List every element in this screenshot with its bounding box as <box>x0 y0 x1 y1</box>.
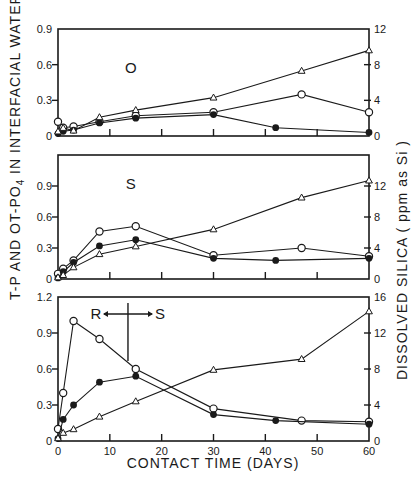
filled-circle-marker <box>70 402 77 409</box>
y-axis-right-title: DISSOLVED SILICA ( ppm as Si ) <box>394 140 410 380</box>
y-right-tick-label: 12 <box>374 180 386 192</box>
y-left-title-main: T-P AND OT-PO <box>7 185 23 300</box>
y-left-tick-label: 0.6 <box>37 363 52 375</box>
y-right-tick-label: 4 <box>374 94 380 106</box>
y-left-tick-label: 0.3 <box>37 242 52 254</box>
y-left-tick-label: 0 <box>46 130 52 142</box>
y-left-tick-label: 0.9 <box>37 327 52 339</box>
panel-label: O <box>125 59 137 76</box>
filled-circle-marker <box>210 255 217 262</box>
x-tick-label: 10 <box>104 445 116 457</box>
y-left-tick-label: 0.6 <box>37 211 52 223</box>
x-tick-label: 0 <box>55 445 61 457</box>
filled-circle-marker <box>60 416 67 423</box>
x-axis-title: CONTACT TIME (DAYS) <box>127 455 300 471</box>
y-left-tick-label: 0.3 <box>37 399 52 411</box>
y-right-tick-label: 16 <box>374 291 386 303</box>
y-left-tick-label: 0.6 <box>37 59 52 71</box>
y-left-title-rest: IN INTERFACIAL WATER ( ppm as P ) <box>7 0 23 179</box>
open-circle-marker <box>298 244 305 251</box>
y-right-tick-label: 0 <box>374 435 380 447</box>
open-circle-marker <box>60 389 67 396</box>
panel-1: 00.30.60.904812O <box>37 23 387 142</box>
filled-circle-marker <box>96 379 103 386</box>
y-right-tick-label: 4 <box>374 242 380 254</box>
y-left-tick-label: 0.3 <box>37 94 52 106</box>
y-right-tick-label: 8 <box>374 211 380 223</box>
open-circle-marker <box>70 317 77 324</box>
x-tick-label: 50 <box>311 445 323 457</box>
y-right-tick-label: 4 <box>374 399 380 411</box>
open-circle-marker <box>96 228 103 235</box>
y-left-tick-label: 1.2 <box>37 291 52 303</box>
open-triangle-marker <box>298 356 305 362</box>
panel-label-s: S <box>155 305 165 322</box>
panel-label-r: R <box>91 305 102 322</box>
series-line <box>58 226 369 274</box>
y-right-tick-label: 8 <box>374 59 380 71</box>
open-triangle-marker <box>366 177 373 183</box>
y-left-tick-label: 0 <box>46 435 52 447</box>
panel-3: 010203040506000.30.60.91.20481216RS <box>37 291 387 457</box>
filled-circle-marker <box>366 129 373 136</box>
filled-circle-marker <box>96 243 103 250</box>
open-circle-marker <box>365 109 372 116</box>
filled-circle-marker <box>96 120 103 127</box>
filled-circle-marker <box>210 411 217 418</box>
filled-circle-marker <box>272 124 279 131</box>
filled-circle-marker <box>210 111 217 118</box>
y-left-tick-label: 0.9 <box>37 180 52 192</box>
filled-circle-marker <box>132 115 139 122</box>
panel-label: S <box>126 175 136 192</box>
arrow-right-icon <box>148 311 153 317</box>
y-right-tick-label: 12 <box>374 23 386 35</box>
contact-time-chart: 00.30.60.904812O00.30.60.904812S01020304… <box>0 0 420 487</box>
y-right-tick-label: 0 <box>374 130 380 142</box>
open-triangle-marker <box>366 308 373 314</box>
open-circle-marker <box>210 405 217 412</box>
series-line <box>58 50 369 131</box>
y-right-tick-label: 8 <box>374 363 380 375</box>
filled-circle-marker <box>132 373 139 380</box>
arrow-left-icon <box>103 311 108 317</box>
y-left-tick-label: 0.9 <box>37 23 52 35</box>
filled-circle-marker <box>272 417 279 424</box>
open-triangle-marker <box>366 47 373 53</box>
filled-circle-marker <box>366 421 373 428</box>
chart-panels: 00.30.60.904812O00.30.60.904812S01020304… <box>37 23 387 457</box>
panel-frame <box>58 29 369 136</box>
y-left-tick-label: 0 <box>46 273 52 285</box>
y-right-tick-label: 12 <box>374 327 386 339</box>
y-right-tick-label: 0 <box>374 273 380 285</box>
open-circle-marker <box>54 118 61 125</box>
panel-2: 00.30.60.904812S <box>37 155 387 285</box>
open-circle-marker <box>298 417 305 424</box>
open-circle-marker <box>132 365 139 372</box>
open-circle-marker <box>298 91 305 98</box>
filled-circle-marker <box>272 257 279 264</box>
open-circle-marker <box>132 223 139 230</box>
open-circle-marker <box>96 335 103 342</box>
series-line <box>58 311 369 438</box>
y-axis-left-title: T-P AND OT-PO4 IN INTERFACIAL WATER ( pp… <box>7 0 26 300</box>
filled-circle-marker <box>366 255 373 262</box>
